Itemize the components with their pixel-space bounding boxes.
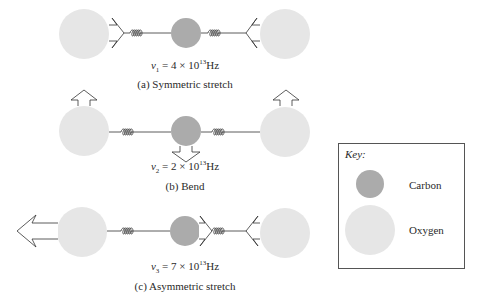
key-legend: Key: Carbon Oxygen xyxy=(338,143,465,269)
oxygen-atom-right xyxy=(260,107,310,157)
arrow-left-icon xyxy=(17,215,58,247)
mode-a-frequency: v1 = 4 × 1013Hz xyxy=(151,58,219,74)
freq-value: = 2 × 10 xyxy=(159,160,199,172)
oxygen-atom-right xyxy=(260,208,310,258)
arrow-left-icon xyxy=(246,18,260,48)
freq-value: = 4 × 10 xyxy=(159,59,199,71)
mode-b-frequency: v2 = 2 × 1013Hz xyxy=(151,159,219,175)
arrow-right-icon xyxy=(109,18,124,48)
mode-b-molecule xyxy=(59,90,310,162)
arrow-left-icon xyxy=(246,216,260,246)
mode-a-caption: (a) Symmetric stretch xyxy=(137,78,232,90)
carbon-atom xyxy=(171,116,201,146)
mode-c-molecule xyxy=(17,207,310,258)
arrow-right-icon xyxy=(199,216,212,246)
oxygen-atom-left xyxy=(57,207,107,257)
freq-unit: Hz xyxy=(206,160,219,172)
spring-icon xyxy=(107,228,170,234)
spring-icon xyxy=(201,129,260,135)
oxygen-atom-left xyxy=(59,106,109,156)
mode-a-molecule xyxy=(59,9,310,59)
mode-c-frequency: v3 = 7 × 1013Hz xyxy=(151,259,219,275)
key-label-carbon: Carbon xyxy=(409,179,441,191)
arrow-up-icon xyxy=(273,90,299,106)
mode-c-caption: (c) Asymmetric stretch xyxy=(135,280,236,292)
key-label-oxygen: Oxygen xyxy=(409,224,444,236)
arrow-up-icon xyxy=(71,90,97,106)
spring-icon xyxy=(109,129,171,135)
oxygen-atom-right xyxy=(260,9,310,59)
mode-b-caption: (b) Bend xyxy=(166,180,205,192)
freq-unit: Hz xyxy=(206,260,219,272)
freq-unit: Hz xyxy=(206,59,219,71)
spring-icon xyxy=(201,30,246,36)
carbon-atom xyxy=(171,18,201,48)
key-title: Key: xyxy=(345,148,366,160)
carbon-atom xyxy=(170,216,200,246)
spring-icon xyxy=(124,30,171,36)
oxygen-atom-left xyxy=(59,9,109,59)
freq-value: = 7 × 10 xyxy=(159,260,199,272)
spring-icon xyxy=(210,228,248,234)
